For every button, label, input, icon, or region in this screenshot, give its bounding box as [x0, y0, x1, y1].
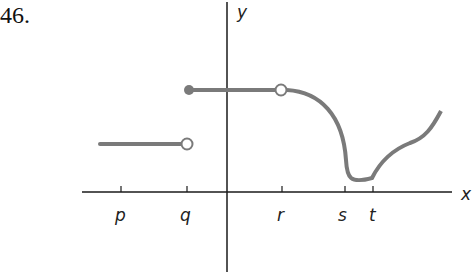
tick-label-r: r [277, 205, 285, 225]
tick-label-q: q [180, 205, 191, 225]
graph: p q r s t x y [0, 0, 474, 273]
x-axis-label: x [460, 184, 472, 204]
filled-circle-q [184, 85, 194, 95]
curve [287, 90, 441, 180]
tick-label-t: t [369, 205, 377, 225]
x-ticks [121, 186, 373, 192]
tick-label-p: p [114, 205, 126, 225]
tick-label-s: s [338, 205, 347, 225]
open-circle-q [182, 139, 193, 150]
y-axis-label: y [236, 2, 248, 22]
open-circle-r [276, 85, 287, 96]
